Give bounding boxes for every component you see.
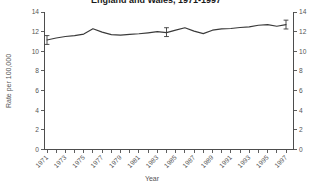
y-tick-label-left: 14 <box>32 8 40 15</box>
chart-background <box>0 0 312 193</box>
y-tick-label-right: 10 <box>299 48 307 55</box>
y-tick-label-left: 4 <box>35 107 39 114</box>
y-tick-label-right: 14 <box>299 8 307 15</box>
y-tick-label-right: 2 <box>299 126 303 133</box>
y-tick-label-left: 2 <box>35 126 39 133</box>
y-tick-label-left: 10 <box>32 48 40 55</box>
y-tick-label-left: 6 <box>35 87 39 94</box>
y-tick-label-left: 12 <box>32 28 40 35</box>
y-tick-label-right: 4 <box>299 107 303 114</box>
y-tick-label-right: 6 <box>299 87 303 94</box>
y-tick-label-left: 8 <box>35 67 39 74</box>
y-tick-label-right: 8 <box>299 67 303 74</box>
chart-title: England and Wales, 1971-1997 <box>91 0 221 5</box>
line-chart-figure: England and Wales, 1971-1997 02468101214… <box>0 0 312 193</box>
y-tick-label-right: 12 <box>299 28 307 35</box>
y-tick-label-left: 0 <box>35 146 39 153</box>
y-axis-title: Rate per 100,000 <box>5 54 13 108</box>
x-axis-title: Year <box>145 175 160 182</box>
y-tick-label-right: 0 <box>299 146 303 153</box>
